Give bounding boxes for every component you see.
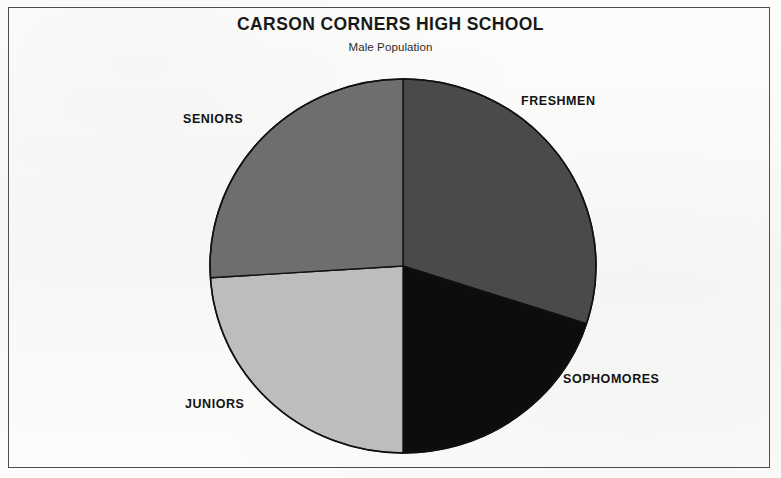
pie-chart-screenshot: CARSON CORNERS HIGH SCHOOL Male Populati… — [0, 0, 781, 478]
chart-subtitle: Male Population — [0, 41, 781, 53]
pie-slice-juniors — [210, 266, 403, 453]
pie-chart-plot-area — [209, 78, 597, 454]
pie-svg — [209, 78, 597, 454]
pie-label-sophomores: SOPHOMORES — [563, 372, 660, 386]
pie-label-seniors: SENIORS — [183, 112, 243, 126]
pie-slice-group — [210, 79, 596, 453]
pie-label-freshmen: FRESHMEN — [521, 94, 596, 108]
chart-title: CARSON CORNERS HIGH SCHOOL — [0, 14, 781, 35]
pie-label-juniors: JUNIORS — [185, 397, 244, 411]
pie-slice-seniors — [210, 79, 403, 278]
